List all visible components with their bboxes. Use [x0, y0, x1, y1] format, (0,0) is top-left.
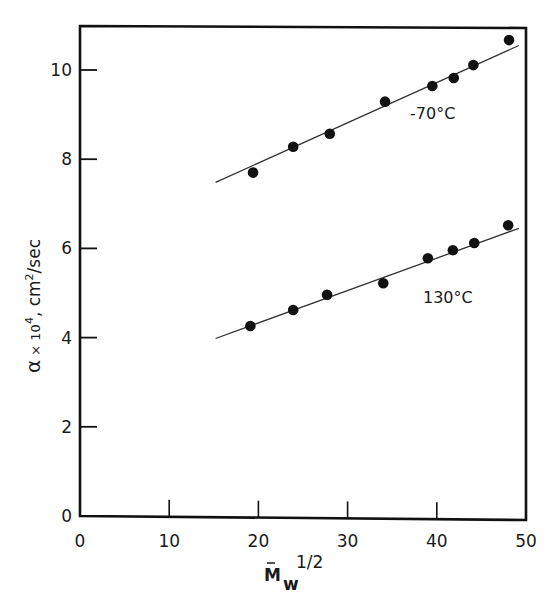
data-point — [468, 60, 479, 71]
data-point — [380, 96, 391, 107]
svg-text:α × 104, cm2/sec: α × 104, cm2/sec — [21, 239, 45, 373]
svg-text:M: M — [264, 565, 281, 585]
data-point — [504, 35, 515, 46]
series-label-minus70: -70°C — [410, 104, 455, 123]
series-minus70c — [216, 35, 519, 183]
y-axis-label: α × 104, cm2/sec — [21, 239, 45, 373]
data-point — [427, 81, 438, 92]
data-point — [448, 245, 459, 256]
x-tick-label: 30 — [337, 531, 359, 551]
data-point — [324, 128, 335, 139]
data-point — [378, 278, 389, 289]
y-tick-label: 0 — [61, 506, 72, 526]
x-tick-label: 10 — [158, 531, 180, 551]
alpha-symbol: α — [21, 360, 45, 373]
plot-frame — [80, 26, 526, 520]
x-tick-label: 50 — [515, 531, 537, 551]
y-tick-label: 8 — [61, 149, 72, 169]
series-label-130: 130°C — [423, 288, 473, 307]
x-axis-label: M w 1/2 — [264, 552, 323, 594]
axes-box — [80, 26, 526, 520]
svg-text:w: w — [283, 574, 299, 594]
data-point — [288, 141, 299, 152]
svg-text:1/2: 1/2 — [296, 552, 323, 572]
data-point — [469, 238, 480, 249]
data-point — [245, 321, 256, 332]
data-point — [288, 305, 299, 316]
data-point — [322, 289, 333, 300]
y-tick-label: 10 — [50, 60, 72, 80]
chart: 024681001020304050 -70°C 130°C α × 104, … — [0, 0, 558, 606]
data-series — [216, 35, 519, 339]
x-tick-label: 0 — [75, 531, 86, 551]
y-tick-label: 2 — [61, 417, 72, 437]
data-point — [423, 253, 434, 264]
data-point — [448, 73, 459, 84]
x-tick-label: 20 — [248, 531, 270, 551]
y-tick-label: 4 — [61, 328, 72, 348]
data-point — [503, 220, 514, 231]
data-point — [248, 167, 259, 178]
series-130c — [216, 220, 519, 339]
y-tick-label: 6 — [61, 238, 72, 258]
x-tick-label: 40 — [426, 531, 448, 551]
